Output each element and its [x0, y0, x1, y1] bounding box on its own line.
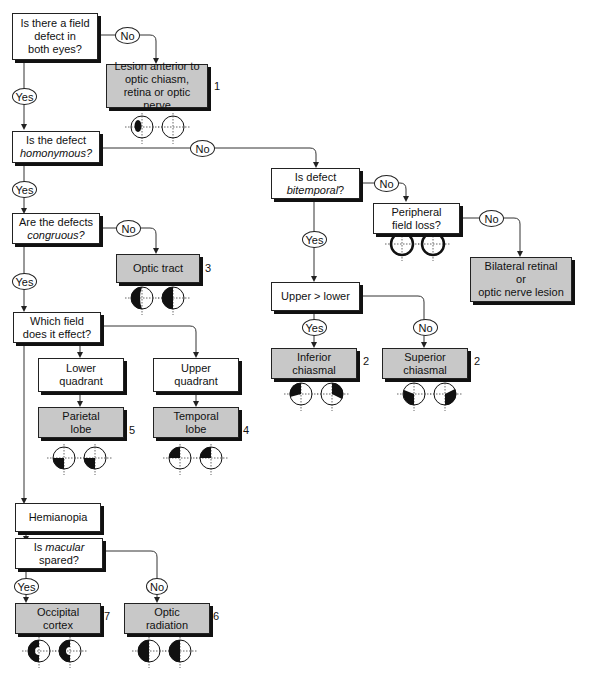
r9-line1: Optic: [154, 606, 180, 618]
r3-line2: or: [516, 273, 526, 285]
result-optic-tract: Optic tract: [116, 254, 200, 283]
r8-number: 7: [104, 610, 110, 622]
lower-quadrant-line2: quadrant: [59, 375, 102, 387]
result-occipital-cortex: Occipital cortex: [15, 603, 101, 634]
result-lesion-anterior-chiasm: Lesion anterior to optic chiasm, retina …: [106, 64, 208, 108]
r5-line1: Superior: [404, 351, 446, 363]
question-upper-greater-lower: Upper > lower: [271, 282, 360, 311]
question-homonymous: Is the defect homonymous?: [12, 131, 100, 163]
edge-label-no-q1: No: [115, 27, 140, 44]
r6-number: 5: [129, 424, 135, 436]
edge-label-yes-q8: Yes: [14, 578, 39, 595]
q6-line1: Peripheral: [391, 206, 441, 218]
upper-quadrant-line1: Upper: [181, 362, 211, 374]
r3-line1: Bilateral retinal: [485, 260, 558, 272]
field-icon-r4-right: [317, 380, 349, 411]
edge-label-yes-q1: Yes: [12, 88, 37, 105]
field-icon-r2-right: [158, 284, 190, 315]
r2-number: 3: [205, 262, 211, 274]
q1-line2: defect in: [34, 30, 76, 42]
hemianopia-box: Hemianopia: [15, 503, 101, 532]
r2-line1: Optic tract: [133, 262, 183, 275]
q6-line2: field loss?: [392, 219, 441, 231]
lower-quadrant-line1: Lower: [66, 362, 96, 374]
question-macular-spared: Is macular spared?: [15, 538, 103, 569]
edge-label-no-q7: No: [413, 319, 438, 336]
q3-line1: Are the defects: [19, 216, 93, 228]
q2-line1: Is the defect: [26, 134, 86, 146]
r5-line2: chiasmal: [403, 364, 446, 376]
q5-line1: Is defect: [295, 171, 337, 183]
r4-line2: chiasmal: [292, 364, 335, 376]
field-icon-q6-left: [385, 230, 419, 261]
field-icon-r4-left: [284, 380, 318, 411]
q3-line2: congruous?: [27, 229, 85, 241]
field-icon-r6-right: [80, 444, 112, 475]
upper-quadrant-line2: quadrant: [174, 375, 217, 387]
edge-label-yes-q5: Yes: [302, 231, 327, 248]
field-icon-r1-left: [125, 113, 159, 144]
field-icon-r7-right: [196, 444, 228, 475]
field-icon-r5-left: [397, 380, 431, 411]
edge-label-no-q2: No: [190, 140, 215, 157]
field-icon-r6-left: [47, 444, 81, 475]
field-icon-r8-right: [55, 637, 87, 668]
field-icon-r2-left: [125, 284, 159, 315]
r8-line1: Occipital: [37, 606, 79, 618]
r4-number: 2: [363, 355, 369, 367]
q4-line2: does it effect?: [23, 328, 91, 340]
result-bilateral-retinal: Bilateral retinal or optic nerve lesion: [470, 257, 572, 302]
r6-line1: Parietal: [62, 410, 99, 422]
edge-label-no-q3: No: [116, 220, 141, 237]
question-which-field: Which field does it effect?: [13, 312, 101, 343]
question-congruous: Are the defects congruous?: [12, 213, 100, 244]
result-parietal-lobe: Parietal lobe: [38, 407, 124, 438]
r1-line2: optic chiasm,: [125, 73, 189, 85]
r5-number: 2: [474, 355, 480, 367]
q1-line1: Is there a field: [20, 17, 89, 29]
r7-number: 4: [243, 424, 249, 436]
field-icon-r7-left: [163, 444, 197, 475]
field-icon-q6-right: [418, 230, 450, 261]
field-icon-r8-left: [22, 637, 56, 668]
lower-quadrant-box: Lower quadrant: [38, 358, 124, 392]
r9-number: 6: [213, 610, 219, 622]
edge-label-yes-q7: Yes: [302, 319, 327, 336]
r4-line1: Inferior: [297, 351, 331, 363]
edge-label-no-q5: No: [374, 175, 399, 192]
r1-line3: retina or optic nerve: [124, 86, 191, 111]
result-optic-radiation: Optic radiation: [124, 603, 210, 634]
question-peripheral-field-loss: Peripheral field loss?: [373, 203, 460, 234]
hemianopia-label: Hemianopia: [29, 511, 88, 524]
r1-line1: Lesion anterior to: [115, 60, 200, 72]
result-temporal-lobe: Temporal lobe: [153, 407, 239, 438]
question-bitemporal: Is defect bitemporal?: [271, 168, 360, 199]
q1-line3: both eyes?: [28, 43, 82, 55]
field-icon-r9-left: [132, 637, 166, 668]
edge-label-no-q6: No: [479, 210, 504, 227]
edge-label-yes-q3: Yes: [12, 273, 37, 290]
r7-line1: Temporal: [173, 410, 218, 422]
q7-line1: Upper > lower: [281, 290, 350, 303]
r9-line2: radiation: [146, 619, 188, 631]
q2-line2: homonymous?: [20, 147, 92, 159]
question-field-defect-both-eyes: Is there a field defect in both eyes?: [12, 13, 98, 60]
r6-line2: lobe: [71, 423, 92, 435]
field-icon-r5-right: [430, 380, 462, 411]
result-superior-chiasmal: Superior chiasmal: [382, 348, 468, 379]
field-icon-r9-right: [165, 637, 197, 668]
result-inferior-chiasmal: Inferior chiasmal: [271, 348, 357, 379]
r7-line2: lobe: [186, 423, 207, 435]
edge-label-yes-q2: Yes: [12, 181, 37, 198]
edge-label-no-q8: No: [146, 578, 168, 595]
r1-number: 1: [214, 80, 220, 92]
q4-line1: Which field: [30, 315, 84, 327]
field-icon-r1-right: [158, 113, 190, 144]
q8-line2: spared?: [39, 554, 79, 566]
r3-line3: optic nerve lesion: [478, 286, 564, 298]
upper-quadrant-box: Upper quadrant: [153, 358, 239, 392]
r8-line2: cortex: [43, 619, 73, 631]
